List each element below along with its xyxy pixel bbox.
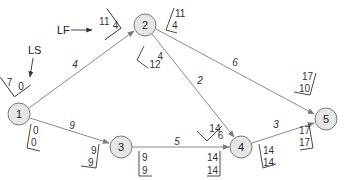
edge-2-5-end-box: 17 10 [294, 71, 316, 96]
svg-text:17: 17 [299, 137, 311, 148]
edge-4-5-start-box: 14 14 [259, 144, 276, 168]
svg-text:9: 9 [91, 145, 97, 156]
svg-text:0: 0 [33, 125, 39, 136]
svg-text:17: 17 [302, 71, 314, 82]
ls-callout-arrow [30, 58, 33, 77]
node-1: 1 [8, 103, 30, 125]
edge-1-2-end-box: 11 4 [91, 7, 124, 41]
svg-text:6: 6 [218, 130, 224, 141]
svg-text:1: 1 [16, 108, 22, 120]
edge-2-5 [156, 29, 314, 114]
svg-text:14: 14 [263, 145, 275, 156]
edge-3-4-end-box: 14 14 [207, 151, 220, 176]
edge-2-4-start-box: 12 4 [143, 48, 171, 75]
edge-2-5-duration: 6 [232, 57, 238, 68]
svg-text:9: 9 [88, 157, 94, 168]
svg-text:0: 0 [31, 137, 37, 148]
svg-text:3: 3 [118, 141, 124, 153]
edge-1-3-start-box: 0 0 [27, 124, 40, 151]
svg-text:2: 2 [142, 19, 148, 31]
edge-2-4-start-bracket [137, 46, 148, 68]
edge-2-4-duration: 2 [196, 75, 203, 86]
edge-4-5-duration: 3 [273, 119, 279, 130]
edge-2-5-start-box: 11 4 [166, 8, 186, 34]
edge-1-3-duration: 9 [69, 120, 75, 131]
network-diagram: 4 9 2 6 5 3 1 2 3 4 5 LS LF [0, 0, 345, 180]
svg-text:4: 4 [158, 51, 164, 62]
svg-text:4: 4 [238, 141, 244, 153]
edge-3-4-start-box: 9 9 [139, 151, 152, 176]
edge-1-2-duration: 4 [72, 59, 78, 70]
svg-text:5: 5 [323, 113, 329, 125]
ls-callout-label: LS [28, 44, 41, 56]
svg-text:11: 11 [175, 8, 186, 19]
svg-text:17: 17 [299, 125, 311, 136]
edge-1-3-end-box: 9 9 [81, 144, 99, 168]
edge-1-2-start-box: 7 0 [0, 66, 32, 99]
edge-4-5-end-box: 17 17 [299, 124, 313, 150]
svg-text:7: 7 [7, 77, 13, 88]
svg-text:10: 10 [299, 83, 311, 94]
svg-text:14: 14 [207, 165, 219, 176]
svg-text:11: 11 [99, 16, 110, 27]
edge-1-2 [29, 31, 134, 108]
node-3: 3 [110, 136, 132, 158]
svg-text:4: 4 [172, 20, 178, 31]
svg-text:9: 9 [142, 165, 148, 176]
node-5: 5 [315, 108, 337, 130]
svg-text:14: 14 [207, 152, 219, 163]
lf-callout-label: LF [57, 24, 70, 36]
node-2: 2 [134, 14, 156, 36]
svg-text:9: 9 [142, 152, 148, 163]
edge-3-4-duration: 5 [174, 136, 180, 147]
node-4: 4 [230, 136, 252, 158]
